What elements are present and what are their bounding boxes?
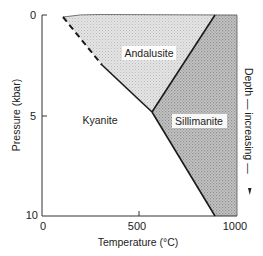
y-tick-label-10: 10 bbox=[26, 209, 38, 221]
x-tick-label-0: 0 bbox=[40, 220, 46, 232]
x-tick-label-1000: 1000 bbox=[223, 220, 247, 232]
y-tick-label-0: 0 bbox=[30, 9, 36, 21]
x-tick-label-500: 500 bbox=[128, 220, 146, 232]
depth-annotation: Depth — increasing — bbox=[243, 68, 255, 174]
y-axis-label: Pressure (kbar) bbox=[10, 79, 22, 151]
kyanite-label: Kyanite bbox=[82, 114, 117, 126]
sillimanite-label: Sillimanite bbox=[175, 115, 223, 127]
y-tick-label-5: 5 bbox=[30, 110, 36, 122]
andalusite-label: Andalusite bbox=[124, 47, 173, 59]
depth-annotation-text: Depth — increasing — bbox=[243, 68, 255, 174]
down-arrow-icon bbox=[248, 188, 252, 195]
phase-diagram: 0 5 10 0 500 1000 Temperature (°C) Press… bbox=[0, 0, 263, 256]
x-axis-label: Temperature (°C) bbox=[98, 236, 179, 248]
